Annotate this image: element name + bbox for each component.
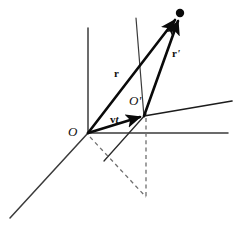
label-vector-vt: vt	[110, 114, 119, 125]
vector-r-arrow	[88, 20, 175, 133]
label-origin-o: O	[68, 125, 77, 138]
vector-r-prime-arrow	[144, 21, 178, 116]
event-point	[176, 9, 184, 17]
event-point-group	[176, 9, 184, 17]
label-vector-r: r	[114, 68, 119, 79]
vectors-group	[88, 20, 178, 133]
axis-o-depth	[10, 133, 88, 218]
axis-oprime-horizontal	[144, 101, 232, 116]
label-vector-r-prime: r'	[172, 48, 180, 59]
diagram-canvas	[0, 0, 242, 227]
vector-diagram-figure: O O' r r' vt	[0, 0, 242, 227]
axes-group	[10, 18, 232, 218]
label-origin-o-prime: O'	[129, 94, 141, 107]
